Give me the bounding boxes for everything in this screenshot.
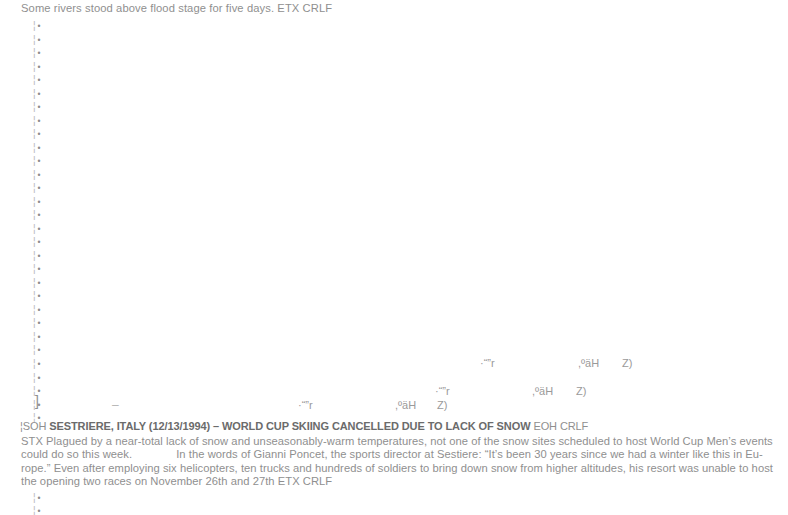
- margin-mark: ¦•: [33, 332, 41, 342]
- garbage-text-fragment: Z): [622, 357, 632, 369]
- bullet-glyph: •: [38, 116, 41, 126]
- margin-mark: ¦•: [33, 35, 41, 45]
- bullet-glyph: •: [38, 359, 41, 369]
- broken-bar-glyph: ¦: [33, 182, 36, 193]
- broken-bar-glyph: ¦: [33, 236, 36, 247]
- bullet-glyph: •: [38, 291, 41, 301]
- broken-bar-glyph: ¦: [33, 101, 36, 112]
- bullet-glyph: •: [38, 506, 41, 515]
- body-line-4: the opening two races on November 26th a…: [21, 475, 773, 488]
- broken-bar-glyph: ¦: [33, 304, 36, 315]
- bullet-glyph: •: [38, 35, 41, 45]
- margin-mark: ¦•: [33, 224, 41, 234]
- garbage-text-fragment: ,ºäH: [532, 385, 553, 397]
- broken-bar-glyph: ¦: [33, 492, 36, 503]
- bullet-glyph: •: [38, 102, 41, 112]
- margin-mark: ¦•: [33, 197, 41, 207]
- bullet-glyph: •: [38, 345, 41, 355]
- body-line-3: rope.” Even after employing six helicopt…: [21, 462, 773, 475]
- article-headline-row: ¦SOH SESTRIERE, ITALY (12/13/1994) – WOR…: [20, 420, 588, 432]
- bullet-glyph: •: [38, 62, 41, 72]
- body-line-2: could do so this week.In the words of Gi…: [21, 448, 773, 461]
- garbage-text-fragment: ·“”r: [435, 385, 450, 397]
- broken-bar-glyph: ¦: [33, 47, 36, 58]
- margin-mark: ¦•: [33, 183, 41, 193]
- broken-bar-glyph: ¦: [33, 34, 36, 45]
- broken-bar-glyph: ¦: [33, 128, 36, 139]
- margin-mark: ¦•: [33, 506, 41, 515]
- bullet-glyph: •: [38, 129, 41, 139]
- margin-mark: ¦•: [33, 373, 41, 383]
- margin-mark: ¦•: [33, 21, 41, 31]
- margin-mark: ¦•: [33, 129, 41, 139]
- margin-mark: ¦•: [33, 493, 41, 503]
- broken-bar-glyph: ¦: [33, 115, 36, 126]
- bullet-glyph: •: [38, 170, 41, 180]
- broken-bar-glyph: ¦: [33, 317, 36, 328]
- bullet-glyph: •: [38, 75, 41, 85]
- margin-mark: ¦•: [33, 143, 41, 153]
- eoh-control-code: EOH CRLF: [533, 420, 588, 432]
- bullet-glyph: •: [38, 305, 41, 315]
- broken-bar-glyph: ¦: [33, 358, 36, 369]
- margin-mark: ¦•: [33, 305, 41, 315]
- broken-bar-glyph: ¦: [33, 74, 36, 85]
- broken-bar-glyph: ¦: [33, 88, 36, 99]
- garbage-text-fragment: ·“”r: [480, 357, 495, 369]
- broken-bar-glyph: ¦: [33, 331, 36, 342]
- margin-mark: ¦•: [33, 345, 41, 355]
- bullet-glyph: •: [38, 493, 41, 503]
- broken-bar-glyph: ¦: [33, 290, 36, 301]
- broken-bar-glyph: ¦: [33, 277, 36, 288]
- margin-mark: ¦•: [33, 48, 41, 58]
- margin-mark: ¦•: [33, 291, 41, 301]
- broken-bar-glyph: ¦: [33, 169, 36, 180]
- broken-bar-glyph: ¦: [33, 61, 36, 72]
- bullet-glyph: •: [38, 183, 41, 193]
- bullet-glyph: •: [38, 264, 41, 274]
- broken-bar-glyph: ¦: [33, 209, 36, 220]
- bullet-glyph: •: [38, 21, 41, 31]
- margin-mark: ¦•: [33, 116, 41, 126]
- bullet-glyph: •: [38, 143, 41, 153]
- bullet-glyph: •: [38, 332, 41, 342]
- garbage-text-fragment: ·“”r: [298, 399, 313, 411]
- margin-mark: ¦•: [33, 62, 41, 72]
- top-text-line: Some rivers stood above flood stage for …: [21, 2, 332, 15]
- bullet-glyph: •: [38, 318, 41, 328]
- broken-bar-glyph: ¦: [33, 142, 36, 153]
- margin-mark: ¦•: [33, 210, 41, 220]
- bullet-glyph: •: [38, 237, 41, 247]
- bullet-glyph: •: [38, 197, 41, 207]
- bullet-glyph: •: [38, 251, 41, 261]
- body-line-1: STX Plagued by a near-total lack of snow…: [21, 435, 773, 448]
- broken-bar-glyph: ¦: [33, 223, 36, 234]
- margin-mark: ¦•: [33, 264, 41, 274]
- scanned-document-page: Some rivers stood above flood stage for …: [0, 0, 788, 515]
- body-line-2b: In the words of Gianni Poncet, the sport…: [176, 448, 763, 460]
- stray-dash-glyph: –: [112, 398, 119, 412]
- broken-bar-glyph: ¦: [33, 263, 36, 274]
- margin-mark: ¦•: [33, 102, 41, 112]
- margin-mark: ¦•: [33, 75, 41, 85]
- margin-mark: ¦•: [33, 170, 41, 180]
- soh-control-code: ¦SOH: [20, 420, 46, 432]
- margin-mark: ¦•: [33, 359, 41, 369]
- broken-bar-glyph: ¦: [33, 155, 36, 166]
- bullet-glyph: •: [38, 48, 41, 58]
- garbage-text-fragment: ,ºäH: [578, 357, 599, 369]
- bullet-glyph: •: [38, 210, 41, 220]
- broken-bar-glyph: ¦: [33, 505, 36, 515]
- margin-mark: ¦•: [33, 251, 41, 261]
- margin-mark: ¦•: [33, 278, 41, 288]
- margin-mark: ¦•: [33, 318, 41, 328]
- bullet-glyph: •: [38, 224, 41, 234]
- stray-bracket-glyph: ]: [35, 393, 39, 409]
- broken-bar-glyph: ¦: [33, 250, 36, 261]
- article-body: STX Plagued by a near-total lack of snow…: [21, 435, 773, 488]
- garbage-text-fragment: Z): [576, 385, 586, 397]
- bullet-glyph: •: [38, 373, 41, 383]
- broken-bar-glyph: ¦: [33, 344, 36, 355]
- article-headline: SESTRIERE, ITALY (12/13/1994) – WORLD CU…: [49, 420, 530, 432]
- broken-bar-glyph: ¦: [33, 20, 36, 31]
